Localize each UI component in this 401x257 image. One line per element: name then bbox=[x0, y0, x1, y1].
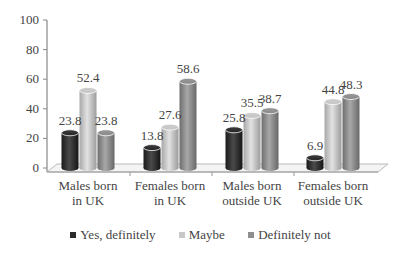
legend-item-yes-definitely: Yes, definitely bbox=[70, 227, 155, 243]
value-label: 58.6 bbox=[177, 61, 200, 76]
bar bbox=[62, 130, 79, 171]
legend-item-maybe: Maybe bbox=[179, 227, 225, 243]
bar bbox=[80, 87, 97, 171]
value-label: 13.8 bbox=[141, 128, 164, 143]
bar bbox=[343, 94, 360, 171]
value-label: 48.3 bbox=[340, 77, 363, 92]
value-label: 27.6 bbox=[159, 107, 182, 122]
legend-swatch-icon bbox=[179, 232, 185, 238]
y-tick-label: 40 bbox=[26, 101, 39, 116]
legend-label: Definitely not bbox=[258, 227, 331, 243]
value-label: 25.8 bbox=[223, 110, 246, 125]
value-label: 38.7 bbox=[259, 91, 282, 106]
y-tick-label: 20 bbox=[26, 130, 39, 145]
value-label: 52.4 bbox=[77, 70, 100, 85]
bar bbox=[226, 127, 243, 171]
category-label: Females bornin UK bbox=[135, 178, 206, 208]
bar bbox=[162, 124, 179, 171]
value-label: 6.9 bbox=[307, 138, 323, 153]
value-label: 23.8 bbox=[95, 113, 118, 128]
bar bbox=[144, 145, 161, 171]
legend: Yes, definitely Maybe Definitely not bbox=[0, 226, 401, 243]
legend-item-definitely-not: Definitely not bbox=[248, 227, 331, 243]
bar bbox=[307, 155, 324, 171]
bar-chart: 020406080100 23.813.825.86.952.427.635.5… bbox=[0, 0, 401, 257]
bar bbox=[180, 78, 197, 171]
legend-label: Maybe bbox=[189, 227, 225, 243]
bar bbox=[244, 112, 261, 171]
legend-swatch-icon bbox=[248, 232, 254, 238]
bar bbox=[262, 108, 279, 171]
y-tick-label: 0 bbox=[33, 160, 40, 175]
category-label: Females bornoutside UK bbox=[298, 178, 369, 208]
bar bbox=[98, 130, 115, 171]
y-tick-label: 100 bbox=[20, 12, 40, 27]
category-labels: Males bornin UKFemales bornin UKMales bo… bbox=[59, 178, 369, 208]
y-tick-label: 60 bbox=[26, 71, 39, 86]
bar bbox=[325, 99, 342, 171]
legend-label: Yes, definitely bbox=[80, 227, 155, 243]
value-label: 23.8 bbox=[59, 113, 82, 128]
y-tick-label: 80 bbox=[26, 42, 39, 57]
category-label: Males bornin UK bbox=[59, 178, 118, 208]
y-axis: 020406080100 bbox=[20, 12, 48, 175]
legend-swatch-icon bbox=[70, 232, 76, 238]
category-label: Males bornoutside UK bbox=[222, 178, 282, 208]
